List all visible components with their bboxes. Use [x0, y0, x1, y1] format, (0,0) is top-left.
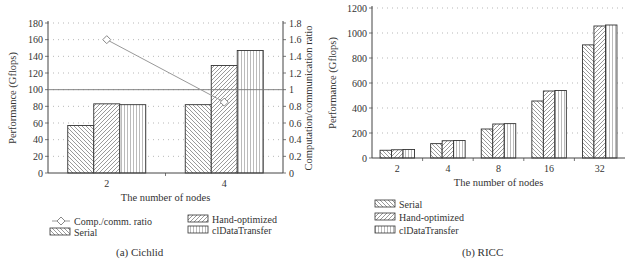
y-tick-label: 60: [33, 118, 43, 129]
x-tick-label: 4: [445, 163, 450, 174]
bar-serial: [532, 101, 544, 158]
y-tick-label: 200: [352, 128, 367, 139]
x-tick-label: 2: [395, 163, 400, 174]
bar-serial: [582, 45, 594, 158]
bar-serial: [380, 150, 392, 158]
svg-text:Comp./comm. ratio: Comp./comm. ratio: [74, 216, 152, 227]
x-tick-label: 8: [496, 163, 501, 174]
y2-tick-label: 0: [289, 168, 294, 179]
y-tick-label: 100: [28, 84, 43, 95]
y-tick-label: 800: [352, 53, 367, 64]
y-tick-label: 1200: [347, 3, 367, 14]
x-tick-label: 32: [595, 163, 605, 174]
legend-swatch-icon: [375, 213, 395, 220]
y-tick-label: 600: [352, 78, 367, 89]
svg-text:clDataTransfer: clDataTransfer: [212, 225, 272, 236]
y-tick-label: 180: [28, 18, 43, 29]
legend-item: Serial: [375, 199, 423, 210]
y-tick-label: 20: [33, 151, 43, 162]
bar-cldatatransfer: [605, 25, 617, 158]
y-tick-label: 120: [28, 68, 43, 79]
y2-axis-label: Computation/communication ratio: [303, 26, 314, 171]
legend-item: clDataTransfer: [188, 225, 272, 236]
caption-a: (a) Cichlid: [116, 246, 163, 258]
y-tick-label: 140: [28, 51, 43, 62]
y-tick-label: 1000: [347, 28, 367, 39]
bar-cldatatransfer: [555, 91, 567, 159]
legend-swatch-icon: [50, 228, 70, 235]
y-axis-label: Performance (Gflops): [7, 52, 19, 144]
legend-swatch-icon: [375, 226, 395, 233]
y-tick-label: 400: [352, 103, 367, 114]
bar-hand-optimized: [543, 91, 555, 158]
x-axis-label: The number of nodes: [121, 192, 211, 203]
diamond-marker-icon: [103, 36, 111, 44]
svg-text:Serial: Serial: [399, 199, 423, 210]
x-tick-label: 2: [104, 178, 109, 189]
legend-item: Serial: [50, 227, 98, 238]
y2-tick-label: 0.2: [289, 151, 302, 162]
y2-tick-label: 1: [289, 84, 294, 95]
bar-hand-optimized: [392, 150, 404, 158]
bar-serial: [185, 105, 211, 173]
y2-tick-label: 0.4: [289, 134, 302, 145]
bar-cldatatransfer: [120, 105, 146, 173]
caption-b: (b) RICC: [462, 246, 503, 258]
y2-tick-label: 1.8: [289, 18, 302, 29]
bar-hand-optimized: [442, 141, 454, 158]
legend-item: Hand-optimized: [188, 214, 277, 225]
bar-hand-optimized: [211, 66, 237, 174]
y-axis-label: Performance (Gflops): [327, 37, 339, 129]
svg-text:Hand-optimized: Hand-optimized: [399, 212, 464, 223]
y-tick-label: 0: [38, 168, 43, 179]
legend-item: Hand-optimized: [375, 212, 464, 223]
legend-swatch-icon: [375, 200, 395, 207]
svg-text:Serial: Serial: [74, 227, 98, 238]
y-tick-label: 160: [28, 34, 43, 45]
ratio-line: [107, 40, 225, 102]
svg-text:clDataTransfer: clDataTransfer: [399, 225, 459, 236]
y2-tick-label: 1.6: [289, 34, 302, 45]
y-tick-label: 40: [33, 134, 43, 145]
x-tick-label: 4: [222, 178, 227, 189]
legend-item: Comp./comm. ratio: [52, 216, 152, 227]
y-tick-label: 80: [33, 101, 43, 112]
bar-hand-optimized: [94, 104, 120, 173]
legend-swatch-icon: [188, 215, 208, 222]
chart-ricc: 0200400600800100012002481632The number o…: [320, 0, 636, 273]
y2-tick-label: 1.2: [289, 68, 302, 79]
bar-cldatatransfer: [504, 124, 516, 158]
bar-cldatatransfer: [403, 150, 415, 159]
bar-hand-optimized: [594, 26, 606, 158]
y2-tick-label: 0.8: [289, 101, 302, 112]
bar-cldatatransfer: [237, 51, 263, 174]
diamond-marker-icon: [57, 217, 65, 225]
y-tick-label: 0: [362, 153, 367, 164]
legend-swatch-icon: [188, 226, 208, 233]
legend-item: clDataTransfer: [375, 225, 459, 236]
bar-serial: [431, 144, 443, 158]
bar-serial: [68, 126, 94, 174]
bar-serial: [481, 129, 493, 158]
x-axis-label: The number of nodes: [454, 177, 544, 188]
y2-tick-label: 1.4: [289, 51, 302, 62]
y2-tick-label: 0.6: [289, 118, 302, 129]
bar-cldatatransfer: [454, 141, 466, 159]
svg-text:Hand-optimized: Hand-optimized: [212, 214, 277, 225]
chart-cichlid: 02040608010012014016018024The number of …: [0, 0, 320, 273]
bar-hand-optimized: [493, 124, 505, 158]
x-tick-label: 16: [544, 163, 554, 174]
